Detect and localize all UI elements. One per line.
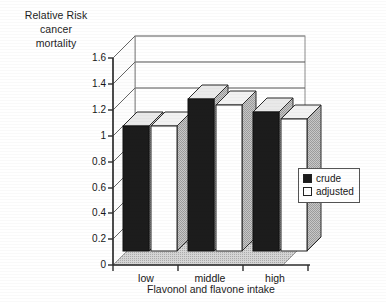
y-tick-label-1-6: 1.6	[76, 52, 106, 63]
empty-square-icon	[303, 187, 312, 196]
y-tick-label-1: 1	[76, 130, 106, 141]
legend-label-crude: crude	[316, 172, 341, 185]
bar-group-middle	[188, 85, 256, 251]
bar-group-low	[123, 112, 191, 251]
y-tick-label-0-8: 0.8	[76, 156, 106, 167]
legend-label-adjusted: adjusted	[316, 185, 354, 198]
bar-chart: Relative Risk cancer mortality	[0, 0, 386, 302]
y-tick-label-0-4: 0.4	[76, 207, 106, 218]
bar-middle-adjusted	[216, 91, 256, 251]
y-tick-label-0-6: 0.6	[76, 182, 106, 193]
x-axis-ticks	[113, 265, 308, 271]
y-tick-label-0-2: 0.2	[76, 233, 106, 244]
y-tick-label-1-2: 1.2	[76, 104, 106, 115]
bar-low-adjusted	[151, 112, 191, 251]
x-axis-title: Flavonol and flavone intake	[96, 283, 326, 295]
y-tick-label-0: 0	[76, 259, 106, 270]
filled-square-icon	[303, 174, 312, 183]
legend-item-adjusted: adjusted	[303, 185, 354, 198]
legend-item-crude: crude	[303, 172, 354, 185]
legend: crude adjusted	[298, 168, 360, 203]
y-tick-label-1-4: 1.4	[76, 78, 106, 89]
plot-area	[0, 0, 386, 302]
